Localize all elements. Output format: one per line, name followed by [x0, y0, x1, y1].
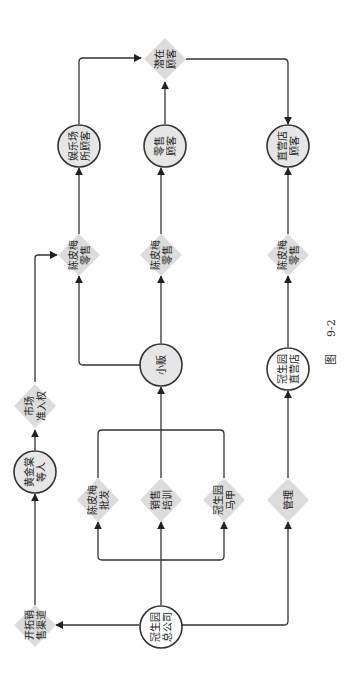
label-vendor: 小贩 [155, 355, 167, 375]
label-retailcust-2: 顾客 [165, 136, 177, 156]
node-expand [14, 605, 56, 647]
label-storecust-2: 顾客 [288, 136, 300, 156]
label-market-2: 准入权 [35, 391, 47, 421]
label-wholesale: 陈皮梅 [86, 485, 98, 515]
label-retail3-2: 零售 [288, 245, 300, 265]
label-potential: 潜在 [153, 49, 165, 69]
label-training: 销售 [149, 490, 161, 510]
node-retail2 [140, 234, 182, 276]
label-expand: 开拓销 [23, 610, 35, 640]
label-ent: 娱乐场 [67, 131, 79, 161]
node-potential [144, 38, 186, 80]
edge-potential-storecust [186, 59, 288, 124]
label-retailcust: 零售 [153, 136, 165, 156]
node-store [267, 348, 309, 390]
caption-number: 9-2 [325, 319, 338, 337]
node-retailcust [144, 125, 186, 167]
label-vest: 冠生园 [212, 485, 224, 515]
node-vest [203, 478, 245, 522]
label-retail2-2: 零售 [161, 245, 173, 265]
edge-hq-vest [161, 522, 224, 560]
edge-market-retail1 [35, 255, 57, 382]
node-retail3 [267, 234, 309, 276]
label-vest-2: 马甲 [225, 490, 236, 510]
label-market: 市场 [23, 396, 35, 416]
node-training [140, 478, 182, 522]
label-retail2: 陈皮梅 [149, 240, 161, 270]
edge-hq-wholesale [98, 522, 161, 560]
edge-vendor-retail1 [79, 276, 141, 365]
node-wholesale [77, 478, 119, 522]
label-manage: 管理 [282, 490, 294, 510]
label-training-2: 培训 [161, 490, 173, 510]
edge-hq-manage [182, 522, 288, 625]
label-retail1: 陈皮梅 [67, 240, 79, 270]
label-retail3: 陈皮梅 [276, 240, 288, 270]
label-hq-2: 总公司 [161, 612, 173, 642]
node-ent [58, 125, 100, 167]
node-market [14, 384, 56, 428]
node-storecust [267, 125, 309, 167]
label-hq: 冠生园 [149, 612, 161, 642]
label-storecust: 直营店 [276, 131, 288, 161]
node-hq [140, 606, 182, 648]
node-retail1 [58, 234, 100, 276]
node-gold [14, 451, 56, 493]
label-wholesale-2: 批发 [98, 490, 110, 510]
label-store-2: 直营店 [288, 354, 300, 384]
flow-diagram: 开拓销售渠道 黄金棠等人 市场准入权 陈皮梅批发 销售培训 冠生园马甲 管理 冠… [0, 0, 357, 678]
caption-prefix: 图 [325, 354, 338, 365]
edge-ent-potential [79, 58, 141, 124]
label-potential-2: 顾客 [165, 49, 177, 69]
label-gold-2: 等人 [35, 462, 47, 482]
label-expand-2: 售渠道 [35, 610, 47, 640]
label-gold: 黄金棠 [23, 457, 35, 487]
label-retail1-2: 零售 [79, 245, 91, 265]
label-store: 冠生园 [276, 354, 288, 384]
label-ent-2: 所顾客 [79, 131, 91, 161]
